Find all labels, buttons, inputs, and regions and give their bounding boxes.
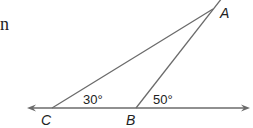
text-fragment: n <box>0 14 9 34</box>
segment-ca <box>52 9 213 108</box>
vertex-label-a: A <box>219 5 229 21</box>
angle-label-b: 50° <box>153 92 173 107</box>
vertex-label-b: B <box>126 112 135 128</box>
segment-ba-extended <box>136 0 222 108</box>
vertex-label-c: C <box>41 112 52 128</box>
angle-label-c: 30° <box>83 92 103 107</box>
triangle-figure: n A C B 30° 50° <box>0 0 253 128</box>
